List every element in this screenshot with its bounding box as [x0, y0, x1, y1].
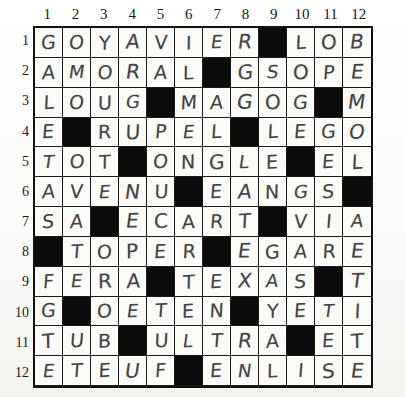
- letter-cell[interactable]: G: [203, 147, 231, 177]
- letter-cell[interactable]: E: [343, 356, 371, 386]
- letter-cell[interactable]: T: [343, 267, 371, 297]
- letter-cell[interactable]: P: [119, 237, 147, 267]
- letter-cell[interactable]: A: [203, 88, 231, 118]
- letter-cell[interactable]: U: [147, 177, 175, 207]
- letter-cell[interactable]: I: [315, 207, 343, 237]
- letter-cell[interactable]: G: [35, 28, 63, 58]
- letter-cell[interactable]: L: [35, 88, 63, 118]
- letter-cell[interactable]: A: [119, 267, 147, 297]
- letter-cell[interactable]: R: [231, 28, 259, 58]
- letter-cell[interactable]: E: [343, 58, 371, 88]
- letter-cell[interactable]: E: [35, 118, 63, 148]
- letter-cell[interactable]: O: [63, 88, 91, 118]
- letter-cell[interactable]: N: [231, 356, 259, 386]
- letter-cell[interactable]: U: [119, 356, 147, 386]
- letter-cell[interactable]: G: [315, 118, 343, 148]
- letter-cell[interactable]: B: [343, 28, 371, 58]
- letter-cell[interactable]: E: [287, 297, 315, 327]
- letter-cell[interactable]: S: [35, 207, 63, 237]
- letter-cell[interactable]: L: [231, 147, 259, 177]
- letter-cell[interactable]: E: [203, 267, 231, 297]
- letter-cell[interactable]: L: [343, 147, 371, 177]
- letter-cell[interactable]: L: [259, 118, 287, 148]
- letter-cell[interactable]: A: [259, 326, 287, 356]
- letter-cell[interactable]: E: [203, 177, 231, 207]
- letter-cell[interactable]: R: [119, 58, 147, 88]
- letter-cell[interactable]: N: [203, 297, 231, 327]
- letter-cell[interactable]: E: [231, 237, 259, 267]
- letter-cell[interactable]: A: [63, 207, 91, 237]
- crossword-grid[interactable]: GOYAVIERLOBAMORALGSOPELOUGMAGOGMERUPELLE…: [33, 26, 373, 388]
- letter-cell[interactable]: U: [147, 326, 175, 356]
- letter-cell[interactable]: T: [315, 297, 343, 327]
- letter-cell[interactable]: G: [287, 177, 315, 207]
- letter-cell[interactable]: F: [35, 267, 63, 297]
- letter-cell[interactable]: L: [203, 118, 231, 148]
- letter-cell[interactable]: R: [315, 237, 343, 267]
- letter-cell[interactable]: E: [35, 356, 63, 386]
- letter-cell[interactable]: S: [287, 267, 315, 297]
- letter-cell[interactable]: A: [343, 207, 371, 237]
- letter-cell[interactable]: E: [63, 267, 91, 297]
- letter-cell[interactable]: A: [35, 58, 63, 88]
- letter-cell[interactable]: V: [63, 177, 91, 207]
- letter-cell[interactable]: N: [259, 177, 287, 207]
- letter-cell[interactable]: R: [203, 207, 231, 237]
- letter-cell[interactable]: E: [91, 356, 119, 386]
- letter-cell[interactable]: S: [315, 177, 343, 207]
- letter-cell[interactable]: Y: [91, 28, 119, 58]
- letter-cell[interactable]: A: [259, 267, 287, 297]
- letter-cell[interactable]: T: [147, 297, 175, 327]
- letter-cell[interactable]: I: [343, 297, 371, 327]
- letter-cell[interactable]: M: [63, 58, 91, 88]
- letter-cell[interactable]: A: [175, 207, 203, 237]
- letter-cell[interactable]: G: [119, 88, 147, 118]
- letter-cell[interactable]: O: [287, 58, 315, 88]
- letter-cell[interactable]: U: [63, 326, 91, 356]
- letter-cell[interactable]: E: [119, 297, 147, 327]
- letter-cell[interactable]: M: [175, 88, 203, 118]
- letter-cell[interactable]: L: [175, 326, 203, 356]
- letter-cell[interactable]: O: [63, 28, 91, 58]
- letter-cell[interactable]: E: [91, 177, 119, 207]
- letter-cell[interactable]: N: [119, 177, 147, 207]
- letter-cell[interactable]: G: [35, 297, 63, 327]
- letter-cell[interactable]: T: [35, 147, 63, 177]
- letter-cell[interactable]: E: [175, 118, 203, 148]
- letter-cell[interactable]: R: [231, 326, 259, 356]
- letter-cell[interactable]: T: [175, 267, 203, 297]
- letter-cell[interactable]: T: [63, 356, 91, 386]
- letter-cell[interactable]: R: [91, 267, 119, 297]
- letter-cell[interactable]: E: [287, 118, 315, 148]
- letter-cell[interactable]: G: [259, 237, 287, 267]
- letter-cell[interactable]: E: [343, 237, 371, 267]
- letter-cell[interactable]: O: [259, 88, 287, 118]
- letter-cell[interactable]: V: [287, 207, 315, 237]
- letter-cell[interactable]: L: [259, 356, 287, 386]
- letter-cell[interactable]: E: [203, 28, 231, 58]
- letter-cell[interactable]: N: [175, 147, 203, 177]
- letter-cell[interactable]: L: [287, 28, 315, 58]
- letter-cell[interactable]: I: [287, 356, 315, 386]
- letter-cell[interactable]: X: [231, 267, 259, 297]
- letter-cell[interactable]: I: [175, 28, 203, 58]
- letter-cell[interactable]: E: [315, 326, 343, 356]
- letter-cell[interactable]: O: [91, 58, 119, 88]
- letter-cell[interactable]: O: [147, 147, 175, 177]
- letter-cell[interactable]: B: [91, 326, 119, 356]
- letter-cell[interactable]: A: [147, 58, 175, 88]
- letter-cell[interactable]: G: [231, 58, 259, 88]
- letter-cell[interactable]: C: [147, 207, 175, 237]
- letter-cell[interactable]: T: [35, 326, 63, 356]
- letter-cell[interactable]: O: [91, 237, 119, 267]
- letter-cell[interactable]: O: [315, 28, 343, 58]
- letter-cell[interactable]: R: [175, 237, 203, 267]
- letter-cell[interactable]: E: [119, 207, 147, 237]
- letter-cell[interactable]: E: [147, 237, 175, 267]
- letter-cell[interactable]: G: [287, 88, 315, 118]
- letter-cell[interactable]: E: [315, 147, 343, 177]
- letter-cell[interactable]: E: [203, 356, 231, 386]
- letter-cell[interactable]: T: [63, 237, 91, 267]
- letter-cell[interactable]: A: [231, 177, 259, 207]
- letter-cell[interactable]: T: [203, 326, 231, 356]
